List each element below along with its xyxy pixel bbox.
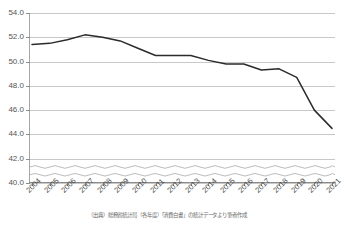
y-axis-tick-label: 42.0 xyxy=(0,155,24,163)
data-series-line xyxy=(29,13,335,183)
line-chart: 40.042.044.046.048.050.052.054.0 2004200… xyxy=(0,0,344,225)
y-axis-tick-label: 40.0 xyxy=(0,179,24,187)
y-axis-tick-label: 44.0 xyxy=(0,130,24,138)
plot-area xyxy=(29,13,335,183)
source-caption: （出典）総務省統計局（各年度）「消費白書」の統計データより筆者作成 xyxy=(88,212,340,219)
y-axis-tick-label: 50.0 xyxy=(0,58,24,66)
y-axis-tick-label: 54.0 xyxy=(0,9,24,17)
y-axis-tick-label: 48.0 xyxy=(0,82,24,90)
y-axis-tick-label: 46.0 xyxy=(0,106,24,114)
x-axis-tick-label: 2004 xyxy=(25,177,43,195)
y-axis-tick-label: 52.0 xyxy=(0,33,24,41)
